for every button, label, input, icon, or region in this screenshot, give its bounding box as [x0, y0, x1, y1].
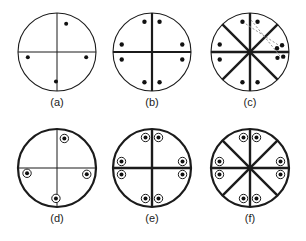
marker-dot-1: [156, 135, 160, 139]
marker-dot-4: [119, 172, 123, 176]
marker-dot-4: [217, 172, 221, 176]
marker-dot-1: [255, 20, 259, 24]
marker-dot-1: [64, 22, 68, 26]
panel-a: (a): [10, 8, 104, 112]
marker-dot-1: [62, 136, 66, 140]
marker-dot-8: [180, 42, 184, 46]
marker-dot-3: [217, 160, 221, 164]
marker-dot-2: [142, 20, 146, 24]
marker-dot-7: [181, 172, 185, 176]
marker-dot-6: [156, 197, 160, 201]
marker-dot-5: [144, 197, 148, 201]
panel-e-drawing: [105, 124, 199, 214]
panel-c-label: (c): [203, 96, 297, 108]
marker-dot-7: [180, 57, 184, 61]
panel-f-label: (f): [203, 212, 297, 224]
marker-dot-4: [120, 57, 124, 61]
marker-dot-2: [85, 172, 89, 176]
marker-dot-5: [242, 197, 246, 201]
marker-dot-5: [240, 80, 244, 84]
marker-dot-drift-2: [275, 46, 279, 50]
panel-b: (b): [105, 8, 199, 112]
panel-e-label: (e): [105, 212, 199, 224]
figure-canvas: (a) (b) (c) (d) (e) (f): [0, 0, 306, 241]
marker-dot-drift-4: [275, 56, 279, 60]
marker-dot-7: [279, 172, 283, 176]
panel-d-label: (d): [10, 212, 104, 224]
marker-dot-6: [255, 80, 259, 84]
marker-dot-2: [240, 20, 244, 24]
marker-dot-1: [157, 20, 161, 24]
marker-dot-2: [84, 55, 88, 59]
marker-dot-3: [119, 160, 123, 164]
marker-dot-4: [54, 80, 58, 84]
panel-d: (d): [10, 124, 104, 230]
panel-c-drawing: [203, 8, 297, 98]
panel-b-drawing: [105, 8, 199, 98]
marker-dot-3: [120, 42, 124, 46]
marker-dot-5: [142, 80, 146, 84]
marker-dot-2: [242, 135, 246, 139]
panel-e: (e): [105, 124, 199, 230]
marker-dot-3: [218, 42, 222, 46]
marker-dot-drift-1: [280, 43, 284, 47]
marker-dot-6: [254, 197, 258, 201]
panel-a-label: (a): [10, 96, 104, 108]
panel-d-drawing: [10, 124, 104, 214]
panel-f-drawing: [203, 124, 297, 214]
marker-dot-3: [25, 171, 29, 175]
panel-a-drawing: [10, 8, 104, 98]
panel-f: (f): [203, 124, 297, 230]
marker-dot-4: [54, 196, 58, 200]
marker-dot-drift-3: [281, 54, 285, 58]
marker-dot-4: [218, 57, 222, 61]
marker-dot-3: [26, 55, 30, 59]
marker-dot-6: [157, 80, 161, 84]
marker-dot-1: [254, 135, 258, 139]
marker-dot-2: [144, 135, 148, 139]
panel-c: (c): [203, 8, 297, 112]
marker-dot-8: [279, 160, 283, 164]
panel-b-label: (b): [105, 96, 199, 108]
marker-dot-8: [181, 160, 185, 164]
